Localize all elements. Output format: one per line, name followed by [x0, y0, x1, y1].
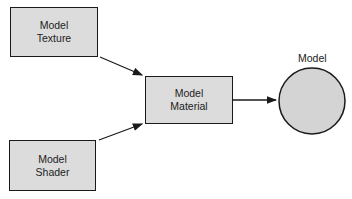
model-texture-line2: Texture: [37, 32, 71, 45]
model-material-box: Model Material: [145, 76, 233, 124]
model-shader-box: Model Shader: [9, 140, 96, 191]
model-shader-line2: Shader: [36, 166, 70, 179]
arrow-texture-to-material: [100, 57, 142, 75]
model-shader-line1: Model: [36, 153, 70, 166]
arrow-shader-to-material: [99, 124, 142, 140]
model-texture-line1: Model: [37, 19, 71, 32]
model-texture-box: Model Texture: [10, 7, 98, 57]
model-material-line1: Model: [170, 87, 207, 100]
model-material-line2: Material: [170, 100, 207, 113]
model-label: Model: [298, 52, 327, 64]
model-circle: [279, 68, 345, 134]
